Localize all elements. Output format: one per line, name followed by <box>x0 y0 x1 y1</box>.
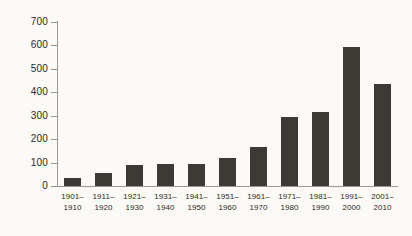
x-axis-category-label: 1931–1940 <box>150 192 181 213</box>
x-axis-category-label-line: 1961– <box>243 192 274 203</box>
y-axis-tick-label-text: 300 <box>2 111 48 121</box>
y-axis-tick-label-text: 100 <box>2 158 48 168</box>
bar <box>219 158 236 186</box>
y-axis-tick-label: 0 <box>0 181 48 191</box>
x-axis-category-label: 1941–1950 <box>181 192 212 213</box>
bar-chart-figure: 0100200300400500600700 1901–19101911–192… <box>0 0 412 236</box>
x-axis-category-label-line: 1980 <box>274 203 305 214</box>
y-axis-tick <box>51 186 57 187</box>
x-axis-category-label: 1951–1960 <box>212 192 243 213</box>
bar <box>95 173 112 186</box>
bar <box>157 164 174 186</box>
x-axis-category-label-line: 2001– <box>367 192 398 203</box>
x-axis-category-label: 1911–1920 <box>88 192 119 213</box>
y-axis-tick-label: 500 <box>0 64 48 74</box>
bar <box>374 84 391 186</box>
y-axis-tick-label: 300 <box>0 111 48 121</box>
y-axis-tick-label-text: 600 <box>2 40 48 50</box>
y-axis-tick-label-text: 200 <box>2 134 48 144</box>
x-axis-category-label: 1991–2000 <box>336 192 367 213</box>
bar <box>250 147 267 186</box>
x-axis-category-label-line: 1951– <box>212 192 243 203</box>
y-axis-tick-label-text: 400 <box>2 87 48 97</box>
x-axis-category-label-line: 1940 <box>150 203 181 214</box>
x-axis-line <box>57 186 398 187</box>
bar <box>64 178 81 186</box>
x-axis-category-label: 1961–1970 <box>243 192 274 213</box>
x-axis-category-label-line: 2000 <box>336 203 367 214</box>
y-axis-tick-label: 100 <box>0 158 48 168</box>
x-axis-category-label-line: 1990 <box>305 203 336 214</box>
bar <box>126 165 143 186</box>
x-axis-category-label: 1981–1990 <box>305 192 336 213</box>
x-axis-category-label: 2001–2010 <box>367 192 398 213</box>
y-axis-tick-label-text: 500 <box>2 64 48 74</box>
plot-area <box>57 22 398 186</box>
x-axis-category-label-line: 2010 <box>367 203 398 214</box>
x-axis-category-label-line: 1970 <box>243 203 274 214</box>
x-axis-category-label-line: 1910 <box>57 203 88 214</box>
y-axis-tick-label-text: 0 <box>2 181 48 191</box>
x-axis-category-label: 1971–1980 <box>274 192 305 213</box>
x-axis-category-label: 1901–1910 <box>57 192 88 213</box>
x-axis-category-label-line: 1911– <box>88 192 119 203</box>
x-axis-category-label-line: 1971– <box>274 192 305 203</box>
bar <box>343 47 360 186</box>
x-axis-category-label-line: 1920 <box>88 203 119 214</box>
x-axis-category-label-line: 1921– <box>119 192 150 203</box>
x-axis-category-label: 1921–1930 <box>119 192 150 213</box>
x-axis-category-label-line: 1991– <box>336 192 367 203</box>
y-axis-tick-label: 200 <box>0 134 48 144</box>
bar <box>281 117 298 186</box>
y-axis-tick-label: 400 <box>0 87 48 97</box>
y-axis-tick-label-text: 700 <box>2 17 48 27</box>
y-axis-tick-label: 600 <box>0 40 48 50</box>
x-axis-category-label-line: 1960 <box>212 203 243 214</box>
x-axis-category-label-line: 1931– <box>150 192 181 203</box>
x-axis-category-label-line: 1981– <box>305 192 336 203</box>
x-axis-category-label-line: 1941– <box>181 192 212 203</box>
x-axis-category-label-line: 1950 <box>181 203 212 214</box>
bar <box>312 112 329 186</box>
y-axis-tick-label: 700 <box>0 17 48 27</box>
x-axis-category-label-line: 1930 <box>119 203 150 214</box>
x-axis-category-label-line: 1901– <box>57 192 88 203</box>
bar <box>188 164 205 186</box>
